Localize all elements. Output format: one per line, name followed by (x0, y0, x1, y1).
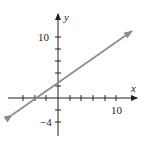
x-tick-label-10: 10 (111, 104, 123, 116)
y-tick-label-10: 10 (38, 31, 50, 43)
y-tick-label-neg4: −4 (40, 116, 52, 128)
x-axis-label: x (130, 82, 136, 94)
y-axis-label: y (63, 11, 69, 23)
data-line (12, 31, 132, 115)
chart: y x 10 10 −4 (0, 0, 147, 141)
